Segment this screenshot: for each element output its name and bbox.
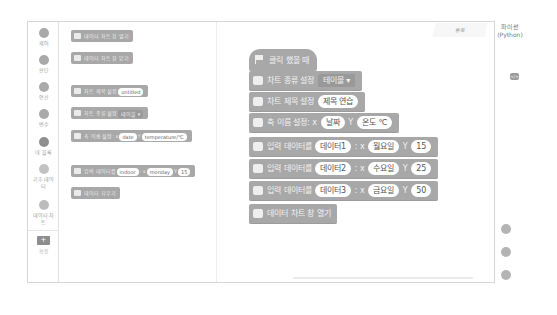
script-block-input-data-2[interactable]: 입력 데이터를 데이터2 : x 수요일 Y 25 [249, 159, 438, 179]
chart-extension-icon [74, 110, 81, 116]
series-input[interactable]: 데이터3 [315, 184, 351, 197]
x-value-input[interactable]: 월요일 [368, 140, 399, 153]
variable-icon [39, 109, 49, 119]
tab-block[interactable]: 블록 [433, 23, 488, 37]
category-operator[interactable]: 연산 [28, 82, 59, 101]
chart-extension-icon [74, 168, 81, 174]
chart-extension-icon [74, 55, 81, 61]
flag-icon [255, 55, 264, 64]
script-block-open-chart[interactable]: 데이터 차트 창 열기 [249, 204, 337, 224]
y-axis-input[interactable]: temperature/℃ [142, 133, 187, 141]
control-icon [39, 28, 49, 38]
palette-block-set-type[interactable]: 차트 종류 설정테이블 ▾ [71, 107, 148, 119]
climate-data-icon [39, 164, 49, 174]
operator-icon [39, 82, 49, 92]
chart-extension-icon [253, 118, 263, 127]
block-palette: 데이터 차트 창 열기 데이터 차트 창 닫기 차트 제목 설정untitled… [59, 22, 217, 282]
zoom-in-icon[interactable] [501, 224, 511, 234]
zoom-out-icon[interactable] [501, 247, 511, 257]
editor-frame: 제어 판단 연산 변수 내 블록 기후 데이터 데이터 차트 + 확장 데이터 … [27, 21, 495, 283]
series-input[interactable]: indoor [117, 168, 139, 176]
script-block-set-title[interactable]: 차트 제목 설정 제목 연습 [249, 92, 365, 112]
chart-extension-icon [253, 76, 263, 85]
palette-block-clear-data[interactable]: 데이터 지우기 [71, 187, 120, 199]
category-climate-data[interactable]: 기후 데이터 [28, 164, 59, 190]
code-view-icon[interactable]: </> [510, 73, 519, 80]
category-my-blocks[interactable]: 내 블록 [28, 137, 59, 156]
category-sidebar: 제어 판단 연산 변수 내 블록 기후 데이터 데이터 차트 + 확장 [28, 22, 59, 282]
chart-extension-icon [74, 33, 81, 39]
x-axis-input[interactable]: 날짜 [321, 116, 345, 129]
y-value-input[interactable]: 15 [178, 168, 190, 176]
chart-extension-icon [74, 133, 81, 139]
chart-extension-icon [253, 142, 263, 151]
palette-block-open-chart[interactable]: 데이터 차트 창 열기 [71, 30, 133, 42]
add-extension-button[interactable]: + [37, 236, 50, 245]
title-input[interactable]: 제목 연습 [318, 95, 359, 108]
y-value-input[interactable]: 25 [411, 162, 431, 175]
x-value-input[interactable]: monday [147, 168, 173, 176]
judgement-icon [39, 55, 49, 65]
category-data-chart[interactable]: 데이터 차트 [28, 200, 59, 226]
my-blocks-icon [39, 137, 49, 147]
title-input[interactable]: untitled [118, 88, 143, 96]
data-chart-icon [39, 200, 49, 210]
y-value-input[interactable]: 50 [411, 184, 431, 197]
series-input[interactable]: 데이터2 [315, 162, 351, 175]
script-block-input-data-1[interactable]: 입력 데이터를 데이터1 : x 월요일 Y 15 [249, 137, 438, 157]
script-block-set-type[interactable]: 차트 종류 설정 테이블 ▾ [249, 71, 362, 91]
horizontal-scrollbar[interactable] [293, 277, 473, 279]
when-clicked-hat-block[interactable]: 클릭 했을 때 [249, 49, 317, 71]
series-input[interactable]: 데이터1 [315, 140, 351, 153]
palette-block-set-axis[interactable]: 축 이름 설정: xdateYtemperature/℃ [71, 130, 192, 142]
x-axis-input[interactable]: date [119, 133, 136, 141]
chart-extension-icon [253, 186, 263, 195]
category-judgement[interactable]: 판단 [28, 55, 59, 74]
category-control[interactable]: 제어 [28, 28, 59, 47]
chart-extension-icon [74, 190, 81, 196]
tab-python[interactable]: 파이썬(Python) [485, 23, 535, 39]
y-value-input[interactable]: 15 [411, 140, 431, 153]
category-variable[interactable]: 변수 [28, 109, 59, 128]
extension-label-wrap: 확장 [28, 248, 59, 255]
palette-block-close-chart[interactable]: 데이터 차트 창 닫기 [71, 52, 133, 64]
chart-extension-icon [74, 88, 81, 94]
x-value-input[interactable]: 금요일 [368, 184, 399, 197]
chart-type-dropdown[interactable]: 테이블 ▾ [318, 74, 356, 87]
chart-extension-icon [253, 97, 263, 106]
chart-extension-icon [253, 164, 263, 173]
palette-block-set-title[interactable]: 차트 제목 설정untitled [71, 85, 148, 97]
palette-block-input-data[interactable]: 입력 데이터를indoor: xmondayY15 [71, 165, 195, 177]
chart-type-dropdown[interactable]: 테이블 ▾ [118, 110, 143, 118]
y-axis-input[interactable]: 온도 ℃ [357, 116, 393, 129]
zoom-reset-icon[interactable] [501, 270, 511, 280]
script-block-input-data-3[interactable]: 입력 데이터를 데이터3 : x 금요일 Y 50 [249, 181, 438, 201]
chart-extension-icon [253, 209, 263, 218]
script-canvas[interactable]: 블록 파이썬(Python) </> 클릭 했을 때 차트 종류 설정 테이블 … [217, 22, 494, 282]
script-block-set-axis[interactable]: 축 이름 설정: x 날짜 Y 온도 ℃ [249, 113, 399, 133]
x-value-input[interactable]: 수요일 [368, 162, 399, 175]
